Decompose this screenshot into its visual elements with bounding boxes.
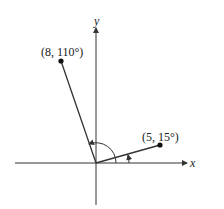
ray-5-15	[96, 145, 160, 163]
diagram-canvas	[0, 0, 224, 209]
point-label-5-15: (5, 15°)	[142, 131, 179, 143]
y-axis-label: y	[94, 15, 99, 27]
angle-arc-15	[128, 155, 129, 163]
point-8-110	[58, 58, 63, 63]
x-axis-label: x	[190, 157, 195, 169]
polar-diagram: y x (8, 110°) (5, 15°)	[0, 0, 224, 209]
ray-8-110	[61, 61, 96, 163]
point-label-8-110: (8, 110°)	[41, 46, 83, 58]
